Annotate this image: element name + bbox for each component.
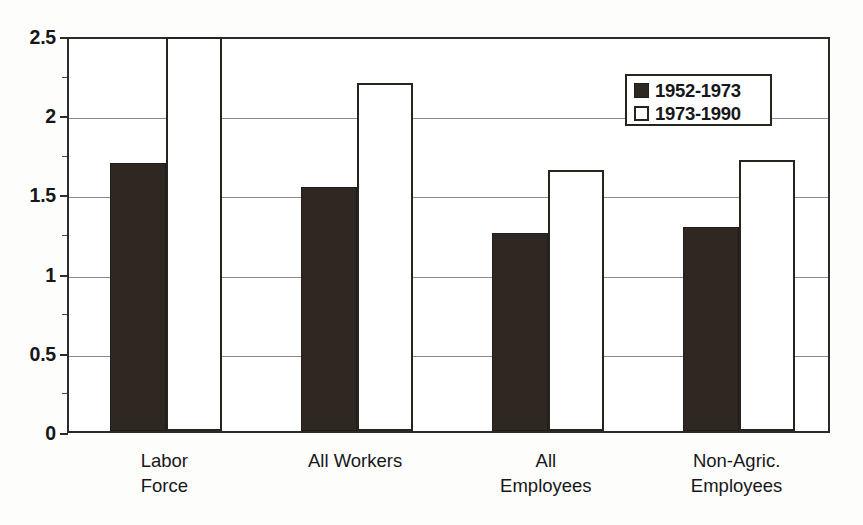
legend-swatch-filled-dark-square-icon: [634, 83, 649, 98]
x-axis-category-label: LaborForce: [64, 448, 264, 498]
x-axis-label-line: All: [446, 448, 646, 473]
y-axis-tick-label: 1: [4, 263, 56, 286]
legend-entry-2: 1973-1990: [634, 102, 764, 125]
legend-swatch-outlined-white-square-icon: [634, 106, 649, 121]
x-axis-label-line: Labor: [64, 448, 264, 473]
bar-1952-1973-All-Employees: [492, 233, 548, 431]
y-axis-tick-label: 0.5: [4, 342, 56, 365]
y-axis-tick: [60, 433, 68, 435]
x-axis-label-line: Force: [64, 473, 264, 498]
x-axis-label-line: All Workers: [255, 448, 455, 473]
bar-1973-1990-Non-Agric.-Employees: [739, 160, 795, 431]
legend: 1952-1973 1973-1990: [625, 74, 772, 126]
bar-1973-1990-All-Employees: [548, 170, 604, 431]
bar-chart: 00.511.522.5 LaborForceAll WorkersAllEmp…: [0, 0, 863, 525]
bar-1973-1990-Labor-Force: [166, 37, 222, 431]
y-axis-tick-label: 0: [4, 422, 56, 445]
x-axis-category-label: Non-Agric.Employees: [637, 448, 837, 498]
x-axis-label-line: Non-Agric.: [637, 448, 837, 473]
bar-1973-1990-All Workers: [357, 83, 413, 431]
bar-1952-1973-Non-Agric.-Employees: [683, 227, 739, 431]
legend-label: 1973-1990: [655, 103, 741, 125]
x-axis-label-line: Employees: [637, 473, 837, 498]
x-axis-category-label: All Workers: [255, 448, 455, 473]
y-axis-tick-label: 2: [4, 105, 56, 128]
bar-1952-1973-All Workers: [301, 187, 357, 431]
legend-label: 1952-1973: [655, 80, 741, 102]
x-axis-category-label: AllEmployees: [446, 448, 646, 498]
legend-entry-1: 1952-1973: [634, 79, 764, 102]
bar-1952-1973-Labor-Force: [110, 163, 166, 431]
y-axis-tick-label: 2.5: [4, 26, 56, 49]
y-axis-tick-label: 1.5: [4, 184, 56, 207]
x-axis-label-line: Employees: [446, 473, 646, 498]
